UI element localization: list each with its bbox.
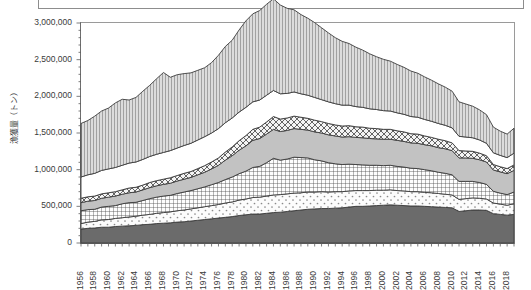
x-tick-label: 2018: [502, 271, 510, 290]
x-tick-label: 1994: [337, 271, 345, 290]
stacked-area-chart: [81, 23, 514, 243]
x-tick-label: 1966: [144, 271, 152, 290]
plot-area: [80, 22, 515, 244]
y-tick-label: 3,000,000: [10, 18, 72, 26]
x-tick-label: 1970: [172, 271, 180, 290]
x-tick-label: 1986: [282, 271, 290, 290]
y-tick-label: 500,000: [10, 201, 72, 209]
x-tick-label: 1962: [117, 271, 125, 290]
x-tick-label: 2000: [378, 271, 386, 290]
x-tick-label: 1958: [89, 271, 97, 290]
area-layers: [81, 0, 514, 243]
x-tick-label: 1990: [309, 271, 317, 290]
x-tick-label: 1980: [240, 271, 248, 290]
x-tick-label: 1956: [76, 271, 84, 290]
x-tick-label: 1996: [350, 271, 358, 290]
x-tick-label: 2002: [392, 271, 400, 290]
y-axis-tick-labels: 0500,0001,000,0001,500,0002,000,0002,500…: [8, 0, 72, 290]
x-tick-label: 1968: [158, 271, 166, 290]
x-tick-label: 2012: [460, 271, 468, 290]
x-tick-label: 2004: [405, 271, 413, 290]
x-tick-label: 2016: [488, 271, 496, 290]
x-tick-label: 2008: [433, 271, 441, 290]
x-tick-label: 1984: [268, 271, 276, 290]
y-tick-label: 2,500,000: [10, 55, 72, 63]
y-tick-label: 0: [10, 238, 72, 246]
figure-root: 漁獲量（トン） 0500,0001,000,0001,500,0002,000,…: [0, 0, 531, 290]
x-tick-label: 1964: [130, 271, 138, 290]
x-tick-label: 1998: [364, 271, 372, 290]
x-tick-label: 1972: [185, 271, 193, 290]
y-tick-label: 1,500,000: [10, 128, 72, 136]
x-tick-label: 1988: [295, 271, 303, 290]
x-tick-label: 1976: [213, 271, 221, 290]
y-tick-label: 1,000,000: [10, 165, 72, 173]
x-axis-tick-labels: 1956195819601962196419661968197019721974…: [80, 244, 514, 290]
x-tick-label: 2014: [474, 271, 482, 290]
x-tick-label: 1960: [103, 271, 111, 290]
x-tick-label: 1982: [254, 271, 262, 290]
x-tick-label: 2006: [419, 271, 427, 290]
y-tick-label: 2,000,000: [10, 91, 72, 99]
x-tick-label: 1978: [227, 271, 235, 290]
x-tick-label: 1974: [199, 271, 207, 290]
x-tick-label: 1992: [323, 271, 331, 290]
x-tick-label: 2010: [447, 271, 455, 290]
